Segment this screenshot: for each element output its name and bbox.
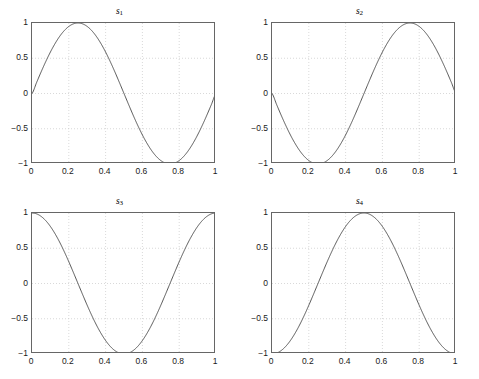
x-tick-label: 1: [213, 356, 218, 366]
y-axis-labels-3: −1−0.500.51: [0, 212, 28, 353]
y-tick-label: −0.5: [11, 123, 28, 133]
y-tick-label: 0: [263, 88, 268, 98]
y-tick-label: 1: [23, 207, 28, 217]
x-tick-label: 0.8: [172, 166, 184, 176]
gridlines-3: [32, 213, 215, 353]
x-tick-label: 0.4: [339, 356, 351, 366]
x-axis-labels-4: 00.20.40.60.81: [271, 356, 455, 370]
x-tick-label: 0.2: [62, 356, 74, 366]
x-tick-label: 0: [29, 356, 34, 366]
data-curve-2: [272, 23, 455, 163]
subplot-title-3-subscript: 3: [120, 199, 124, 207]
subplot-panel-1: s1 −1−0.500.51 00.20.40.60.81: [0, 6, 239, 190]
y-tick-label: −1: [258, 348, 268, 358]
y-tick-label: 0.5: [16, 242, 28, 252]
y-tick-label: −0.5: [251, 123, 268, 133]
x-tick-label: 0.6: [375, 166, 387, 176]
y-tick-label: 0.5: [16, 52, 28, 62]
x-tick-label: 0: [269, 166, 274, 176]
plot-area-3: [31, 212, 215, 353]
subplot-panel-4: s4 −1−0.500.51 00.20.40.60.81: [240, 196, 479, 379]
plot-svg-3: [32, 213, 215, 353]
y-tick-label: 1: [23, 17, 28, 27]
y-tick-label: −0.5: [11, 313, 28, 323]
x-tick-label: 0.4: [99, 356, 111, 366]
gridlines-2: [272, 23, 455, 163]
x-tick-label: 0: [29, 166, 34, 176]
plot-svg-4: [272, 213, 455, 353]
gridlines-4: [272, 213, 455, 353]
x-tick-label: 1: [213, 166, 218, 176]
subplot-title-2: s2: [240, 6, 479, 19]
subplot-panel-2: s2 −1−0.500.51 00.20.40.60.81: [240, 6, 479, 190]
x-tick-label: 0.4: [339, 166, 351, 176]
y-tick-label: 1: [263, 207, 268, 217]
plot-svg-1: [32, 23, 215, 163]
x-tick-label: 0.8: [412, 166, 424, 176]
figure-canvas: s1 −1−0.500.51 00.20.40.60.81 s2 −1−0.50…: [0, 0, 479, 379]
x-axis-labels-3: 00.20.40.60.81: [31, 356, 215, 370]
y-axis-labels-4: −1−0.500.51: [240, 212, 268, 353]
plot-area-1: [31, 22, 215, 163]
subplot-title-4-subscript: 4: [360, 199, 364, 207]
x-tick-label: 0.8: [412, 356, 424, 366]
subplot-title-4: s4: [240, 196, 479, 209]
x-tick-label: 0.6: [375, 356, 387, 366]
y-tick-label: 0: [23, 278, 28, 288]
y-tick-label: −1: [18, 158, 28, 168]
y-tick-label: 0.5: [256, 242, 268, 252]
y-tick-label: −1: [258, 158, 268, 168]
subplot-panel-3: s3 −1−0.500.51 00.20.40.60.81: [0, 196, 239, 379]
y-tick-label: 1: [263, 17, 268, 27]
x-tick-label: 0.2: [302, 166, 314, 176]
subplot-title-2-subscript: 2: [360, 9, 364, 17]
x-tick-label: 0.2: [62, 166, 74, 176]
data-curve-4: [272, 213, 455, 353]
y-tick-label: −1: [18, 348, 28, 358]
x-axis-labels-1: 00.20.40.60.81: [31, 166, 215, 180]
y-axis-labels-2: −1−0.500.51: [240, 22, 268, 163]
data-curve-3: [32, 213, 215, 353]
y-tick-label: 0: [263, 278, 268, 288]
x-tick-label: 0.6: [135, 166, 147, 176]
subplot-title-1-subscript: 1: [120, 9, 124, 17]
x-tick-label: 0.2: [302, 356, 314, 366]
subplot-title-3: s3: [0, 196, 239, 209]
subplot-title-1: s1: [0, 6, 239, 19]
plot-svg-2: [272, 23, 455, 163]
x-tick-label: 1: [453, 356, 458, 366]
y-tick-label: 0.5: [256, 52, 268, 62]
data-curve-1: [32, 23, 215, 163]
x-tick-label: 0.6: [135, 356, 147, 366]
y-tick-label: −0.5: [251, 313, 268, 323]
x-tick-label: 0.4: [99, 166, 111, 176]
y-axis-labels-1: −1−0.500.51: [0, 22, 28, 163]
plot-area-4: [271, 212, 455, 353]
x-tick-label: 1: [453, 166, 458, 176]
x-tick-label: 0: [269, 356, 274, 366]
x-tick-label: 0.8: [172, 356, 184, 366]
x-axis-labels-2: 00.20.40.60.81: [271, 166, 455, 180]
plot-area-2: [271, 22, 455, 163]
y-tick-label: 0: [23, 88, 28, 98]
